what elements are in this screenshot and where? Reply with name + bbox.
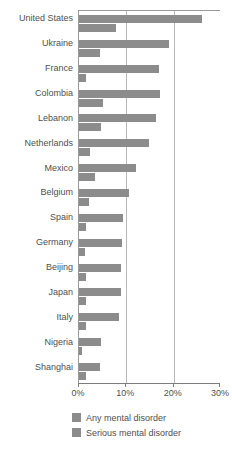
legend-label: Serious mental disorder bbox=[86, 428, 181, 438]
x-tick-mark bbox=[125, 383, 126, 387]
category-label: Netherlands bbox=[0, 138, 73, 148]
legend-label: Any mental disorder bbox=[86, 413, 166, 423]
x-tick-label: 20% bbox=[158, 388, 188, 398]
category-label: Shanghai bbox=[0, 362, 73, 372]
category-group: Nigeria bbox=[79, 334, 221, 359]
category-group: Shanghai bbox=[79, 359, 221, 384]
bar-serious bbox=[79, 198, 89, 206]
category-group: Colombia bbox=[79, 86, 221, 111]
category-group: Beijing bbox=[79, 260, 221, 285]
legend-item[interactable]: Any mental disorder bbox=[72, 410, 232, 425]
category-group: Spain bbox=[79, 210, 221, 235]
category-label: France bbox=[0, 63, 73, 73]
x-tick-mark bbox=[78, 383, 79, 387]
bar-any bbox=[79, 313, 119, 321]
chart-legend: Any mental disorderSerious mental disord… bbox=[0, 410, 232, 440]
x-tick-label: 0% bbox=[63, 388, 93, 398]
category-label: Germany bbox=[0, 237, 73, 247]
bar-serious bbox=[79, 24, 116, 32]
bar-serious bbox=[79, 99, 103, 107]
category-group: Netherlands bbox=[79, 135, 221, 160]
bar-serious bbox=[79, 322, 86, 330]
bar-serious bbox=[79, 273, 86, 281]
x-axis-line bbox=[78, 383, 220, 384]
category-label: Japan bbox=[0, 287, 73, 297]
bar-any bbox=[79, 65, 159, 73]
legend-swatch-icon bbox=[72, 428, 81, 437]
bar-serious bbox=[79, 248, 85, 256]
bar-any bbox=[79, 363, 100, 371]
legend-item[interactable]: Serious mental disorder bbox=[72, 425, 232, 440]
category-group: Mexico bbox=[79, 160, 221, 185]
bar-serious bbox=[79, 173, 95, 181]
bar-any bbox=[79, 214, 123, 222]
bar-any bbox=[79, 15, 202, 23]
bar-serious bbox=[79, 123, 101, 131]
bar-any bbox=[79, 164, 136, 172]
category-group: Italy bbox=[79, 309, 221, 334]
chart-container: United StatesUkraineFranceColombiaLebano… bbox=[0, 0, 232, 451]
category-label: Mexico bbox=[0, 163, 73, 173]
bar-serious bbox=[79, 297, 86, 305]
category-label: Colombia bbox=[0, 88, 73, 98]
category-group: Belgium bbox=[79, 185, 221, 210]
category-label: Nigeria bbox=[0, 337, 73, 347]
bar-any bbox=[79, 139, 149, 147]
bar-any bbox=[79, 189, 129, 197]
category-label: Ukraine bbox=[0, 38, 73, 48]
legend-swatch-icon bbox=[72, 413, 81, 422]
category-group: Japan bbox=[79, 285, 221, 310]
bar-serious bbox=[79, 148, 90, 156]
bar-serious bbox=[79, 223, 86, 231]
category-label: Italy bbox=[0, 312, 73, 322]
category-group: Germany bbox=[79, 235, 221, 260]
x-tick-mark bbox=[173, 383, 174, 387]
plot-area: United StatesUkraineFranceColombiaLebano… bbox=[78, 10, 220, 383]
category-group: France bbox=[79, 61, 221, 86]
bar-any bbox=[79, 40, 169, 48]
x-tick-label: 30% bbox=[205, 388, 232, 398]
x-tick-label: 10% bbox=[110, 388, 140, 398]
category-group: Ukraine bbox=[79, 36, 221, 61]
category-label: Lebanon bbox=[0, 113, 73, 123]
bar-serious bbox=[79, 347, 82, 355]
category-group: Lebanon bbox=[79, 110, 221, 135]
bar-any bbox=[79, 338, 101, 346]
category-label: United States bbox=[0, 13, 73, 23]
bar-any bbox=[79, 288, 121, 296]
bar-serious bbox=[79, 74, 86, 82]
bar-serious bbox=[79, 372, 86, 380]
x-tick-mark bbox=[219, 383, 220, 387]
category-label: Belgium bbox=[0, 187, 73, 197]
bar-any bbox=[79, 264, 121, 272]
category-label: Beijing bbox=[0, 262, 73, 272]
bar-any bbox=[79, 239, 122, 247]
category-group: United States bbox=[79, 11, 221, 36]
bar-serious bbox=[79, 49, 100, 57]
category-label: Spain bbox=[0, 212, 73, 222]
bar-any bbox=[79, 114, 156, 122]
bar-any bbox=[79, 90, 160, 98]
